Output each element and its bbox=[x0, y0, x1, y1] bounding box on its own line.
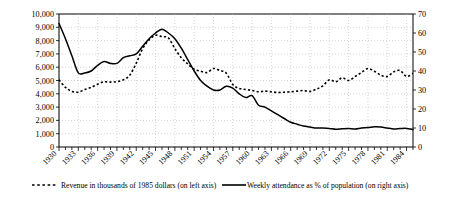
legend-label-attendance: Weekly attendance as % of population (on… bbox=[247, 181, 409, 190]
left-axis-tick-label: 7,000 bbox=[36, 50, 54, 59]
chart-figure: 01,0002,0003,0004,0005,0006,0007,0008,00… bbox=[0, 0, 454, 201]
right-axis-tick-label: 30 bbox=[418, 86, 426, 95]
x-axis-tick-label: 1939 bbox=[99, 149, 117, 167]
x-axis-tick-label: 1936 bbox=[79, 149, 97, 167]
left-axis-tick-label: 6,000 bbox=[36, 63, 54, 72]
x-axis-tick-label: 1942 bbox=[118, 149, 136, 167]
x-axis-tick-label: 1969 bbox=[292, 149, 310, 167]
x-axis-tick-label: 1972 bbox=[311, 149, 329, 167]
right-axis-tick-label: 60 bbox=[418, 29, 426, 38]
x-axis-tick-label: 1930 bbox=[41, 149, 59, 167]
x-axis-tick-label: 1933 bbox=[60, 149, 78, 167]
right-axis-tick-label: 10 bbox=[418, 124, 426, 133]
left-axis-tick-label: 3,000 bbox=[36, 103, 54, 112]
right-axis-tick-label: 0 bbox=[418, 143, 422, 152]
legend-label-revenue: Revenue in thousands of 1985 dollars (on… bbox=[61, 181, 217, 190]
line-chart: 01,0002,0003,0004,0005,0006,0007,0008,00… bbox=[0, 0, 454, 201]
left-axis-tick-label: 5,000 bbox=[36, 77, 54, 86]
x-axis-tick-label: 1954 bbox=[195, 149, 213, 167]
x-axis-tick-label: 1951 bbox=[176, 149, 194, 167]
left-axis-tick-label: 1,000 bbox=[36, 130, 54, 139]
x-axis-tick-label: 1966 bbox=[272, 149, 290, 167]
right-axis-tick-label: 20 bbox=[418, 105, 426, 114]
x-axis-tick-label: 1948 bbox=[157, 149, 175, 167]
left-axis-tick-label: 4,000 bbox=[36, 90, 54, 99]
x-axis-tick-label: 1957 bbox=[215, 149, 233, 167]
right-axis-tick-label: 40 bbox=[418, 67, 426, 76]
x-axis-tick-label: 1975 bbox=[330, 149, 348, 167]
left-axis-tick-label: 9,000 bbox=[36, 23, 54, 32]
right-axis-tick-label: 70 bbox=[418, 10, 426, 19]
right-axis-tick-label: 50 bbox=[418, 48, 426, 57]
x-axis-tick-label: 1984 bbox=[388, 149, 406, 167]
left-axis-tick-label: 8,000 bbox=[36, 37, 54, 46]
x-axis-tick-label: 1978 bbox=[350, 149, 368, 167]
x-axis-tick-label: 1960 bbox=[234, 149, 252, 167]
x-axis-tick-label: 1963 bbox=[253, 149, 271, 167]
x-axis-tick-label: 1945 bbox=[137, 149, 155, 167]
left-axis-tick-label: 10,000 bbox=[31, 10, 54, 19]
attendance-series-line bbox=[59, 24, 413, 130]
x-axis-tick-label: 1981 bbox=[369, 149, 387, 167]
left-axis-tick-label: 2,000 bbox=[36, 116, 54, 125]
